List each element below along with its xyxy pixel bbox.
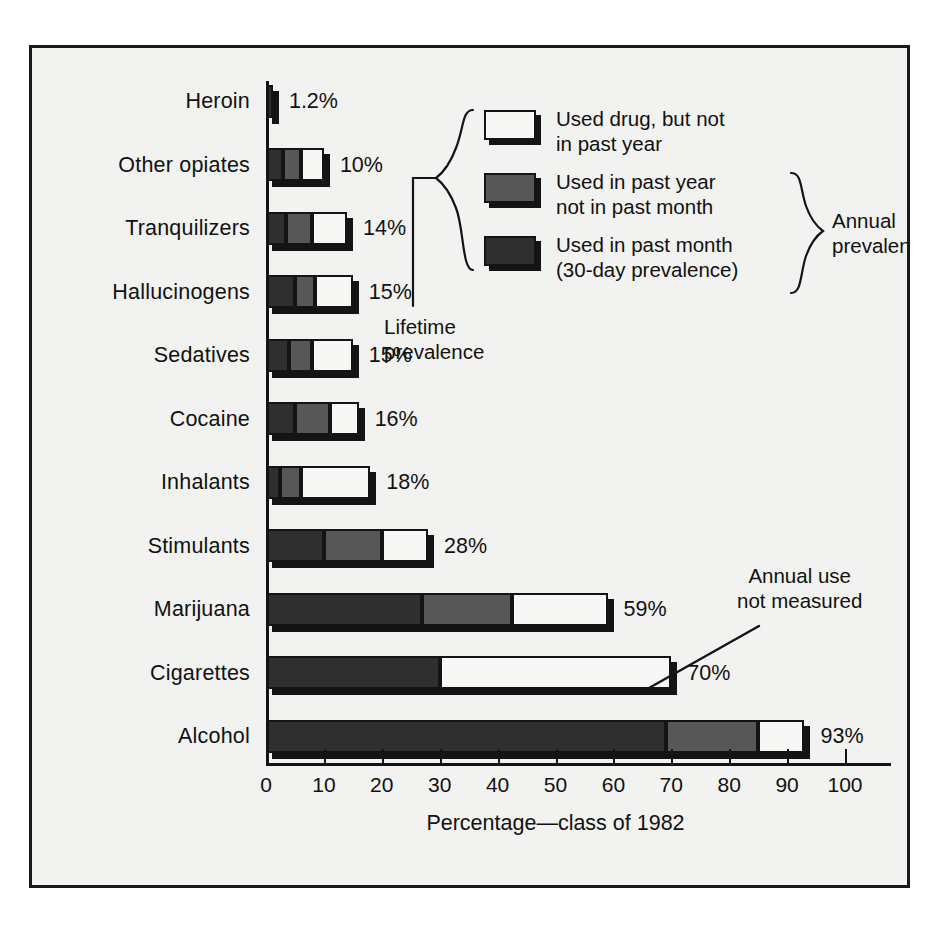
lifetime-prevalence-line: prevalence (384, 339, 484, 364)
annual-prevalence-label: Annualprevalence (832, 208, 910, 258)
legend-label-line: Used drug, but not (556, 106, 725, 131)
legend-label-line: not in past month (556, 194, 716, 219)
annual-use-not-measured-line: not measured (737, 588, 862, 613)
legend-label-line: Used in past year (556, 169, 716, 194)
plot-area: HeroinOther opiatesTranquilizersHallucin… (32, 48, 907, 885)
legend-label-line: in past year (556, 131, 725, 156)
legend-label: Used drug, but notin past year (556, 106, 725, 156)
lifetime-prevalence-line: Lifetime (384, 314, 484, 339)
annual-prevalence-line: Annual (832, 208, 910, 233)
legend-item: Used drug, but notin past year (484, 110, 725, 156)
legend-label-line: Used in past month (556, 232, 738, 257)
lifetime-prevalence-label: Lifetimeprevalence (384, 314, 484, 364)
legend-label: Used in past month(30-day prevalence) (556, 232, 738, 282)
annual-prevalence-line: prevalence (832, 233, 910, 258)
legend-swatch-dark (484, 236, 536, 266)
legend-label: Used in past yearnot in past month (556, 169, 716, 219)
legend-label-line: (30-day prevalence) (556, 257, 738, 282)
legend-item: Used in past month(30-day prevalence) (484, 236, 738, 282)
annual-use-not-measured-label: Annual usenot measured (737, 563, 862, 613)
legend-item: Used in past yearnot in past month (484, 173, 716, 219)
legend-swatch-gray (484, 173, 536, 203)
legend: Used drug, but notin past yearUsed in pa… (32, 48, 907, 885)
chart-figure: HeroinOther opiatesTranquilizersHallucin… (29, 45, 910, 888)
legend-swatch-white (484, 110, 536, 140)
annual-use-not-measured-line: Annual use (737, 563, 862, 588)
y-axis-spine (266, 81, 269, 764)
